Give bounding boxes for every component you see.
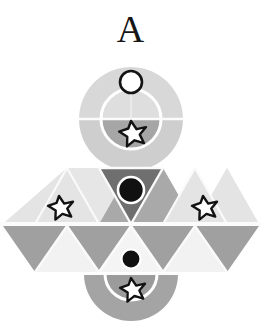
small-open-circle-icon [120,71,142,93]
lower-small-circle-icon [122,250,141,269]
figure-container: A [0,0,261,331]
pictogram-graphic [0,0,261,331]
triangle-band-group [0,168,261,272]
dark-triangle-circle-icon [118,177,144,203]
triangle-row-separator [0,222,261,226]
top-ring-group [70,60,192,179]
bottom-half-disc-group [84,274,178,321]
